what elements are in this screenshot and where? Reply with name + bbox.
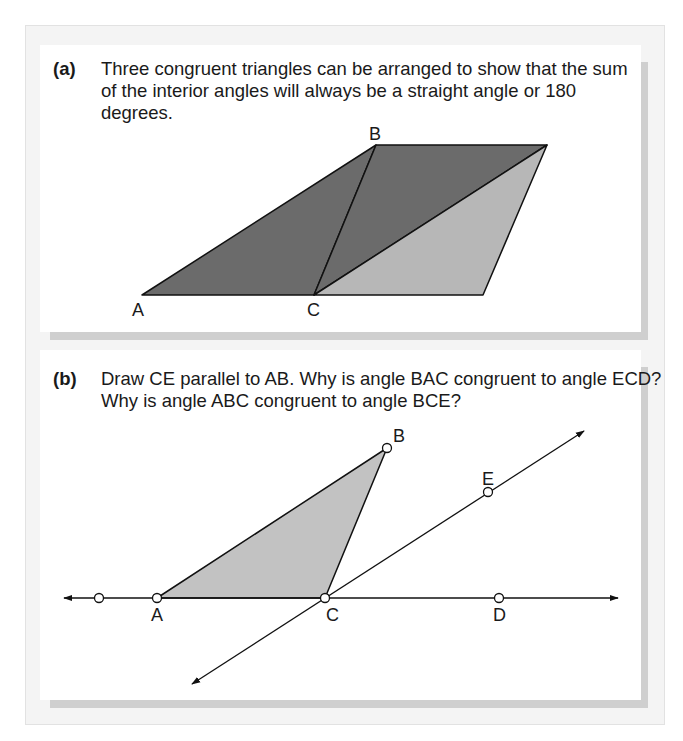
panel-a-shadow-bottom <box>50 332 648 340</box>
panel-b-shadow-bottom <box>50 700 648 708</box>
panel-a-tag: (a) <box>53 58 76 80</box>
panel-b-label-a: A <box>151 606 163 624</box>
panel-b-caption-text: Draw CE parallel to AB. Why is angle BAC… <box>101 368 671 412</box>
panel-a-label-b: B <box>369 125 381 143</box>
panel-a-label-a: A <box>132 301 144 319</box>
panel-a-label-c: C <box>307 301 320 319</box>
panel-b-label-d: D <box>493 606 506 624</box>
panel-b-tag: (b) <box>53 368 77 390</box>
panel-b-shadow-right <box>641 367 648 707</box>
panel-a-caption-text: Three congruent triangles can be arrange… <box>101 58 646 124</box>
panel-b-label-c: C <box>326 606 339 624</box>
panel-b-label-e: E <box>482 470 494 488</box>
panel-b-label-b: B <box>393 427 405 445</box>
